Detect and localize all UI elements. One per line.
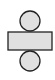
bottom-base-circle [20,51,40,71]
cylinder-net-diagram [0,0,55,80]
top-base-circle [20,11,40,31]
cylinder-net-svg [0,0,55,80]
lateral-surface-rectangle [8,32,52,50]
